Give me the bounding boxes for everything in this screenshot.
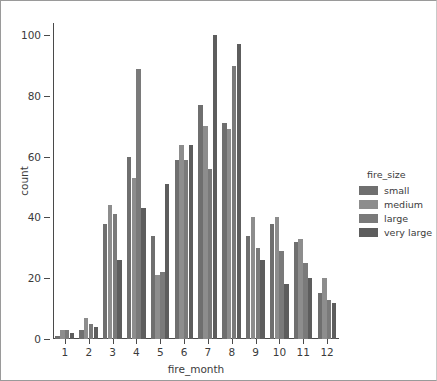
bar bbox=[279, 251, 283, 339]
bar bbox=[84, 318, 88, 339]
bar bbox=[227, 129, 231, 339]
bar bbox=[332, 303, 336, 339]
bar bbox=[136, 69, 140, 339]
bar bbox=[55, 336, 59, 339]
bar bbox=[198, 105, 202, 339]
bar bbox=[275, 217, 279, 339]
chart-figure: count 020406080100 123456789101112 fire_… bbox=[0, 0, 437, 381]
y-tick-mark bbox=[44, 217, 50, 218]
bar-group bbox=[127, 23, 146, 339]
bar bbox=[179, 145, 183, 339]
bar bbox=[308, 278, 312, 339]
bar bbox=[117, 260, 121, 339]
bar bbox=[189, 145, 193, 339]
bar bbox=[151, 236, 155, 339]
bar bbox=[141, 208, 145, 339]
x-tick-label: 9 bbox=[252, 347, 259, 358]
bar bbox=[222, 123, 226, 339]
bar bbox=[256, 248, 260, 339]
bar bbox=[113, 214, 117, 339]
y-axis-title: count bbox=[18, 166, 30, 196]
x-tick-mark bbox=[208, 339, 209, 344]
y-tick-label: 0 bbox=[34, 334, 41, 345]
bar bbox=[127, 157, 131, 339]
y-tick-mark bbox=[44, 278, 50, 279]
x-tick-label: 10 bbox=[273, 347, 286, 358]
bar bbox=[260, 260, 264, 339]
bar bbox=[284, 284, 288, 339]
x-tick-label: 4 bbox=[133, 347, 140, 358]
x-tick-label: 3 bbox=[109, 347, 116, 358]
bar-group bbox=[222, 23, 241, 339]
legend-entry[interactable]: small bbox=[359, 184, 435, 197]
y-tick-label: 60 bbox=[28, 151, 41, 162]
x-tick-label: 5 bbox=[157, 347, 164, 358]
bar-group bbox=[246, 23, 265, 339]
y-tick-label: 80 bbox=[28, 91, 41, 102]
x-tick-mark bbox=[232, 339, 233, 344]
legend-label: small bbox=[384, 185, 409, 196]
legend-entry[interactable]: medium bbox=[359, 198, 435, 211]
bar bbox=[165, 184, 169, 339]
y-tick-label: 100 bbox=[21, 30, 41, 41]
x-tick-mark bbox=[184, 339, 185, 344]
bar bbox=[322, 278, 326, 339]
x-tick-mark bbox=[65, 339, 66, 344]
legend: fire_size smallmediumlargevery large bbox=[359, 169, 435, 240]
x-tick-label: 7 bbox=[205, 347, 212, 358]
bar bbox=[203, 126, 207, 339]
y-tick-mark bbox=[44, 157, 50, 158]
y-tick-label: 40 bbox=[28, 212, 41, 223]
x-tick-mark bbox=[113, 339, 114, 344]
legend-label: medium bbox=[384, 199, 423, 210]
bar bbox=[270, 224, 274, 339]
bar bbox=[103, 224, 107, 339]
x-tick-mark bbox=[89, 339, 90, 344]
bar bbox=[251, 217, 255, 339]
x-tick-mark bbox=[279, 339, 280, 344]
bar-group bbox=[294, 23, 313, 339]
legend-swatch-icon bbox=[359, 186, 378, 195]
bar bbox=[65, 330, 69, 339]
bar bbox=[155, 275, 159, 339]
x-tick-label: 6 bbox=[181, 347, 188, 358]
bar-group bbox=[151, 23, 170, 339]
bar-group bbox=[79, 23, 98, 339]
bar-group bbox=[55, 23, 74, 339]
x-tick-label: 2 bbox=[85, 347, 92, 358]
x-tick-mark bbox=[256, 339, 257, 344]
plot-area: count 020406080100 123456789101112 fire_… bbox=[53, 23, 339, 339]
y-tick-mark bbox=[44, 339, 50, 340]
legend-swatch-icon bbox=[359, 200, 378, 209]
x-tick-mark bbox=[136, 339, 137, 344]
legend-entries: smallmediumlargevery large bbox=[359, 184, 435, 239]
bar bbox=[184, 160, 188, 339]
bar bbox=[89, 324, 93, 339]
bar bbox=[232, 66, 236, 339]
legend-swatch-icon bbox=[359, 228, 378, 237]
x-tick-mark bbox=[303, 339, 304, 344]
bar bbox=[303, 263, 307, 339]
legend-entry[interactable]: large bbox=[359, 212, 435, 225]
y-tick-mark bbox=[44, 96, 50, 97]
bar bbox=[327, 300, 331, 340]
bar bbox=[132, 178, 136, 339]
bar bbox=[213, 35, 217, 339]
x-tick-label: 12 bbox=[320, 347, 333, 358]
x-tick-mark bbox=[327, 339, 328, 344]
bar bbox=[246, 236, 250, 339]
y-tick-label: 20 bbox=[28, 273, 41, 284]
bar bbox=[60, 330, 64, 339]
x-tick-label: 8 bbox=[228, 347, 235, 358]
legend-label: large bbox=[384, 213, 408, 224]
x-axis-title: fire_month bbox=[168, 363, 225, 375]
legend-swatch-icon bbox=[359, 214, 378, 223]
bar-group bbox=[318, 23, 337, 339]
legend-label: very large bbox=[384, 227, 432, 238]
bar bbox=[70, 333, 74, 339]
bar-group bbox=[175, 23, 194, 339]
legend-title: fire_size bbox=[367, 169, 435, 180]
legend-entry[interactable]: very large bbox=[359, 226, 435, 239]
bar bbox=[175, 160, 179, 339]
bar-group bbox=[103, 23, 122, 339]
